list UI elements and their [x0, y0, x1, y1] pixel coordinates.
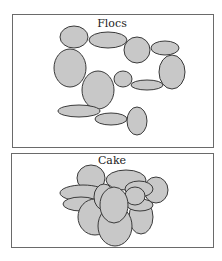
- floc-vs-cake-diagram: Flocs Cake: [0, 0, 222, 261]
- flocs-panel: Flocs: [13, 15, 214, 148]
- cake-panel: Cake: [12, 154, 214, 248]
- particle-ellipse: [151, 41, 179, 55]
- particle-ellipse: [54, 49, 86, 87]
- particle-ellipse: [131, 80, 163, 90]
- particle-ellipse: [127, 107, 147, 135]
- particle-ellipse: [60, 26, 88, 48]
- cake-label: Cake: [98, 154, 126, 167]
- particle-ellipse: [89, 32, 127, 48]
- particle-ellipse: [95, 113, 127, 125]
- particle-ellipse: [82, 71, 114, 109]
- particle-ellipse: [58, 105, 100, 117]
- particle-ellipse: [124, 37, 150, 63]
- flocs-label: Flocs: [97, 17, 127, 30]
- floc-particles: [54, 26, 185, 135]
- particle-ellipse: [114, 71, 132, 87]
- cake-particles: [60, 165, 168, 246]
- particle-ellipse: [100, 187, 128, 223]
